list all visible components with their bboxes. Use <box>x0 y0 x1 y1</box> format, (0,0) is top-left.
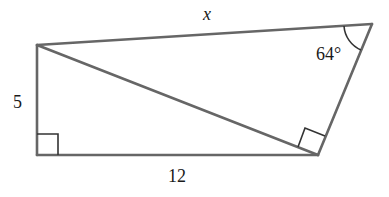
label-angle-64: 64° <box>316 44 341 64</box>
side-top-x <box>37 24 372 45</box>
right-angle-marker-bottom-left <box>37 134 58 155</box>
label-12: 12 <box>168 166 186 186</box>
label-5: 5 <box>13 92 22 112</box>
angle-arc-64 <box>344 26 361 50</box>
right-angle-marker-bottom-right <box>298 128 325 147</box>
diagonal <box>37 45 318 155</box>
geometry-diagram: x 5 12 64° <box>0 0 389 197</box>
label-x: x <box>202 4 211 24</box>
